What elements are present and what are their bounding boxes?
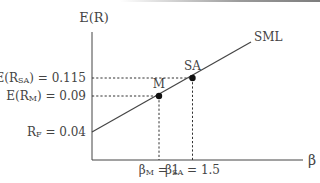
guide-lines <box>92 78 193 160</box>
point-m <box>156 93 162 99</box>
point-label-sa: SA <box>184 59 201 73</box>
sml-line <box>92 42 251 132</box>
point-sa <box>189 75 195 81</box>
x-axis-label: β <box>308 152 316 168</box>
y-annotation-rf: RF = 0.04 <box>27 125 86 139</box>
points: MSA <box>153 59 201 99</box>
y-axis-label: E(R) <box>79 10 108 25</box>
y-annotation-ersa: E(RSA) = 0.115 <box>0 71 86 85</box>
y-annotations: RF = 0.04E(RM) = 0.09E(RSA) = 0.115 <box>0 71 86 139</box>
x-annotations: βM = 1βSA = 1.5 <box>139 163 220 177</box>
sml-chart: E(R) β SML MSA RF = 0.04E(RM) = 0.09E(RS… <box>0 0 320 183</box>
y-annotation-erm: E(RM) = 0.09 <box>6 89 86 103</box>
point-label-m: M <box>153 77 165 91</box>
sml-label: SML <box>254 30 283 44</box>
